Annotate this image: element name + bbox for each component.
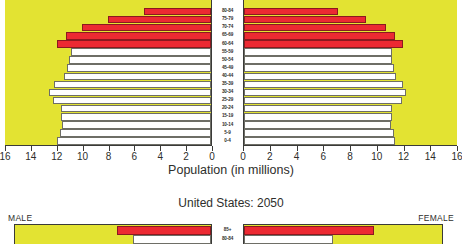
- age-label-70-74: 70-74: [212, 23, 243, 31]
- bar-female-0-4: [244, 137, 395, 145]
- axis-tick-label-6: 6: [123, 151, 145, 162]
- axis-tick: [31, 146, 32, 151]
- top-pyramid-axis-title: Population (in millions): [0, 163, 462, 177]
- axis-tick-label-16: 16: [0, 151, 16, 162]
- axis-tick: [134, 146, 135, 151]
- bar2-male-80-84: [133, 235, 211, 243]
- axis-tick: [109, 146, 110, 151]
- age-label2-80-84: 80-84: [212, 234, 243, 243]
- axis-tick-label-12: 12: [393, 151, 415, 162]
- bottom-pyramid-title: United States: 2050: [0, 196, 462, 210]
- age-label-80-84: 80-84: [212, 7, 243, 15]
- bar-female-30-34: [244, 89, 406, 97]
- bottom-pyramid-chart: 85+80-84: [0, 224, 462, 244]
- bar2-male-85+: [117, 226, 211, 234]
- axis-tick: [270, 146, 271, 151]
- age-label-40-44: 40-44: [212, 72, 243, 80]
- bar-male-50-54: [69, 56, 211, 64]
- axis-tick-label-8: 8: [339, 151, 361, 162]
- age-label-0-4: 0-4: [212, 137, 243, 145]
- population-pyramid-figure: 80-8475-7970-7465-6960-6455-5950-5445-49…: [0, 0, 462, 244]
- bar-female-55-59: [244, 48, 392, 56]
- bar-male-40-44: [64, 73, 211, 81]
- age-label-15-19: 15-19: [212, 112, 243, 120]
- axis-tick: [57, 146, 58, 151]
- axis-tick: [297, 146, 298, 151]
- bar2-female-80-84: [244, 235, 333, 243]
- bar-male-70-74: [82, 24, 211, 32]
- axis-tick-label-2: 2: [175, 151, 197, 162]
- bottom-pyramid-female-label: FEMALE: [418, 213, 454, 223]
- top-pyramid-chart: 80-8475-7970-7465-6960-6455-5950-5445-49…: [0, 0, 462, 146]
- axis-tick-label-14: 14: [20, 151, 42, 162]
- bar-female-45-49: [244, 64, 394, 72]
- axis-tick: [404, 146, 405, 151]
- axis-tick-label-0: 0: [232, 151, 254, 162]
- bar-female-70-74: [244, 24, 386, 32]
- axis-tick: [160, 146, 161, 151]
- age-label-65-69: 65-69: [212, 31, 243, 39]
- bar-male-65-69: [66, 32, 211, 40]
- bar-female-15-19: [244, 113, 392, 121]
- axis-tick-label-10: 10: [366, 151, 388, 162]
- age-label-20-24: 20-24: [212, 104, 243, 112]
- bar-male-45-49: [67, 64, 211, 72]
- age-label-10-14: 10-14: [212, 121, 243, 129]
- axis-tick: [83, 146, 84, 151]
- axis-tick: [377, 146, 378, 151]
- bar-female-65-69: [244, 32, 395, 40]
- bar-male-5-9: [60, 129, 211, 137]
- bar-male-75-79: [108, 16, 212, 24]
- axis-tick-label-4: 4: [149, 151, 171, 162]
- age-label-50-54: 50-54: [212, 56, 243, 64]
- axis-tick-label-0: 0: [201, 151, 223, 162]
- bar-female-80-84: [244, 8, 338, 16]
- axis-tick-label-2: 2: [259, 151, 281, 162]
- bar-male-60-64: [57, 40, 211, 48]
- bottom-pyramid-male-label: MALE: [8, 213, 32, 223]
- axis-tick: [186, 146, 187, 151]
- axis-tick: [430, 146, 431, 151]
- bar-male-20-24: [61, 105, 211, 113]
- axis-tick: [457, 146, 458, 151]
- age-label-30-34: 30-34: [212, 88, 243, 96]
- axis-tick-label-4: 4: [286, 151, 308, 162]
- bar-male-10-14: [62, 121, 211, 129]
- age-label-35-39: 35-39: [212, 80, 243, 88]
- bar-female-40-44: [244, 73, 396, 81]
- bar-male-0-4: [57, 137, 211, 145]
- age-label-5-9: 5-9: [212, 129, 243, 137]
- bar-female-35-39: [244, 81, 403, 89]
- top-pyramid-right-axis-labels: 0246810121416: [243, 151, 457, 163]
- axis-tick-label-8: 8: [98, 151, 120, 162]
- top-pyramid-male-panel: [5, 0, 212, 146]
- age-label-60-64: 60-64: [212, 40, 243, 48]
- axis-tick-label-12: 12: [46, 151, 68, 162]
- bar-female-75-79: [244, 16, 366, 24]
- age-label-75-79: 75-79: [212, 15, 243, 23]
- bar-female-5-9: [244, 129, 394, 137]
- bar-female-50-54: [244, 56, 392, 64]
- age-label2-85+: 85+: [212, 225, 243, 234]
- axis-tick: [5, 146, 6, 151]
- bottom-pyramid-male-panel: [14, 224, 212, 244]
- top-pyramid-left-axis-labels: 1614121086420: [5, 151, 212, 163]
- bar-female-25-29: [244, 97, 402, 105]
- axis-tick: [212, 146, 213, 151]
- bottom-pyramid-age-label-column: 85+80-84: [212, 224, 243, 244]
- top-pyramid-age-label-column: 80-8475-7970-7465-6960-6455-5950-5445-49…: [212, 0, 243, 146]
- axis-tick-label-10: 10: [72, 151, 94, 162]
- bar-female-60-64: [244, 40, 403, 48]
- axis-tick: [243, 146, 244, 151]
- axis-tick: [350, 146, 351, 151]
- axis-tick: [323, 146, 324, 151]
- bar-male-80-84: [144, 8, 211, 16]
- bottom-pyramid-female-panel: [243, 224, 443, 244]
- bar-female-10-14: [244, 121, 391, 129]
- axis-tick-label-6: 6: [312, 151, 334, 162]
- bar-male-30-34: [49, 89, 211, 97]
- bar-male-25-29: [53, 97, 211, 105]
- age-label-55-59: 55-59: [212, 48, 243, 56]
- age-label-25-29: 25-29: [212, 96, 243, 104]
- axis-tick-label-14: 14: [419, 151, 441, 162]
